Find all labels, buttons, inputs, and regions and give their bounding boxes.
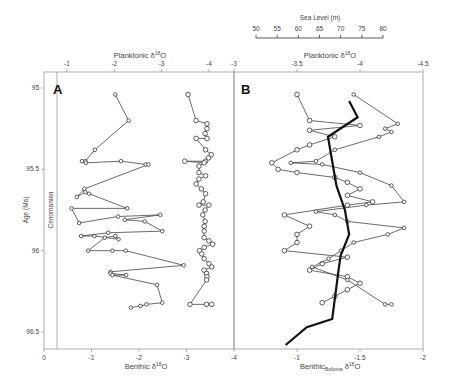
benthic-bolivina-point	[346, 278, 350, 282]
planktonic-a-point	[182, 159, 187, 164]
planktonic-a-point	[203, 208, 208, 213]
planktonic-a-point	[209, 302, 214, 307]
planktonic-b-point	[358, 281, 363, 286]
benthic-a-point	[77, 221, 81, 225]
tick-label: -2	[136, 354, 142, 361]
benthic-a-point	[129, 306, 133, 310]
benthic-a-point	[79, 234, 83, 238]
benthic-bolivina-point	[390, 184, 394, 188]
planktonic-a-point	[199, 187, 204, 192]
benthic-a-point	[124, 249, 128, 253]
benthic-bolivina-point	[310, 265, 314, 269]
planktonic-a-point	[202, 235, 207, 240]
benthic-bolivina-point	[314, 210, 318, 214]
planktonic-b-point	[358, 187, 363, 192]
panel-a-label: A	[53, 82, 63, 97]
benthic-a-point	[160, 229, 164, 233]
tick-label: -4	[231, 354, 237, 361]
benthic-a-point	[124, 273, 128, 277]
tick-label: 60	[295, 25, 303, 32]
planktonic-a-point	[202, 224, 207, 229]
panel-b-plot	[270, 92, 406, 345]
panel-a-plot	[70, 92, 215, 309]
tick-label: 95	[32, 84, 40, 91]
benthic-bolivina-point	[386, 233, 390, 237]
planktonic-a-point	[201, 200, 206, 205]
benthic-bolivina-point	[333, 148, 337, 152]
tick-label: 55	[274, 25, 282, 32]
planktonic-b-point	[345, 203, 350, 208]
planktonic-b-point	[295, 232, 300, 237]
benthic-a-point	[119, 159, 123, 163]
tick-label: -4	[206, 60, 212, 67]
planktonic-a-point	[186, 92, 191, 97]
benthic-bolivina-point	[365, 203, 369, 207]
benthic-bolivina-point	[327, 257, 331, 261]
benthic-bolivina-point	[402, 226, 406, 230]
benthic-a-point	[125, 207, 129, 211]
benthic-a-point	[117, 237, 121, 241]
planktonic-b-point	[282, 248, 287, 253]
planktonic-a-point	[203, 148, 208, 153]
planktonic-a-point	[200, 213, 205, 218]
benthic-bolivina-point	[314, 159, 318, 163]
tick-label: -3	[184, 354, 190, 361]
benthic-a-point	[103, 236, 107, 240]
tick-label: 65	[316, 25, 324, 32]
tick-label: -2	[111, 60, 117, 67]
planktonic-b-point	[320, 300, 325, 305]
benthic-a-point	[84, 161, 88, 165]
tick-label: 96	[32, 247, 40, 254]
benthic-bolivina-point	[289, 161, 293, 165]
benthic-a-point	[160, 301, 164, 305]
labels: A B Age (Ma) Cenomanian Planktonic δ18O …	[22, 14, 360, 372]
benthic-a-point	[84, 190, 88, 194]
tick-label: -3	[159, 60, 165, 67]
planktonic-b-point	[358, 123, 363, 128]
benthic-bolivina-point	[383, 303, 387, 307]
benthic-bolivina-point	[383, 127, 387, 131]
benthic-bolivina-point	[320, 163, 324, 167]
planktonic-a-point	[204, 302, 209, 307]
benthic-a-point	[111, 273, 115, 277]
benthic-a-point	[145, 303, 149, 307]
benthic-a-point	[93, 148, 97, 152]
planktonic-b-point	[282, 213, 287, 218]
tick-label: -2	[420, 354, 426, 361]
tick-label: 95.5	[26, 165, 39, 172]
planktonic-a-point	[210, 242, 215, 247]
panel-a-top-axis-label: Planktonic δ18O	[114, 50, 166, 60]
sea-level-axis-label: Sea Level (m)	[300, 14, 340, 22]
tick-label: 70	[337, 25, 345, 32]
planktonic-b-point	[295, 92, 300, 97]
benthic-bolivina-point	[377, 135, 381, 139]
benthic-a-point	[87, 192, 91, 196]
planktonic-a-point	[209, 265, 214, 270]
planktonic-b-point	[270, 161, 275, 166]
benthic-a-point	[159, 213, 163, 217]
benthic-a-point	[70, 207, 74, 211]
benthic-a-point	[182, 264, 186, 268]
tick-label: 80	[379, 25, 387, 32]
benthic-a-point	[147, 163, 151, 167]
benthic-a-point	[143, 220, 147, 224]
planktonic-a-point	[197, 170, 202, 175]
planktonic-a-point	[188, 302, 193, 307]
benthic-a-point	[75, 195, 79, 199]
planktonic-a-point	[203, 131, 208, 136]
tick-label: -3.5	[291, 60, 303, 67]
benthic-bolivina-point	[352, 241, 356, 245]
panel-b-bottom-axis-label: BenthicBolivina δ18O	[300, 361, 360, 372]
benthic-bolivina-point	[358, 171, 362, 175]
planktonic-a-point	[207, 203, 212, 208]
planktonic-b-point	[345, 193, 350, 198]
planktonic-b-point	[307, 143, 312, 148]
benthic-a-point	[116, 215, 120, 219]
planktonic-a-point	[202, 257, 207, 262]
planktonic-a-point	[194, 182, 199, 187]
planktonic-a-point	[202, 245, 207, 250]
benthic-a-point	[139, 304, 143, 308]
planktonic-b-point	[276, 167, 281, 172]
planktonic-b-point	[307, 118, 312, 123]
planktonic-b-point	[345, 255, 350, 260]
